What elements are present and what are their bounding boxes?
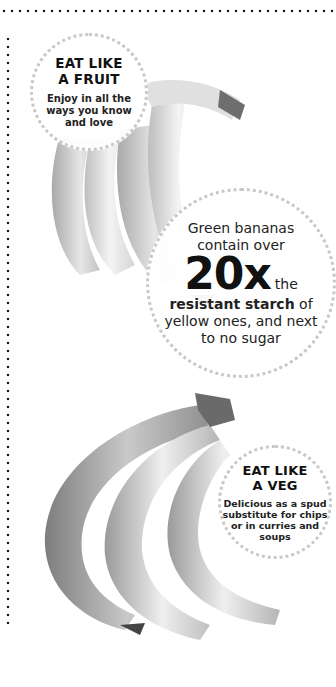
- body-line: or in curries and: [222, 520, 327, 531]
- veg-body: Delicious as a spud substitute for chips…: [222, 498, 327, 542]
- heading-line: EAT LIKE: [242, 463, 307, 478]
- heading-line: EAT LIKE: [55, 55, 122, 71]
- starch-line-rest: of: [295, 296, 313, 312]
- starch-stat-row: 20x the: [184, 252, 298, 296]
- top-dotted-rule: [0, 9, 333, 13]
- starch-bold-term: resistant starch: [169, 296, 294, 312]
- body-line: substitute for chips: [222, 509, 327, 520]
- starch-line: Green bananas: [188, 220, 295, 237]
- veg-heading: EAT LIKE A VEG: [242, 463, 307, 493]
- callout-eat-like-fruit: EAT LIKE A FRUIT Enjoy in all the ways y…: [30, 33, 148, 151]
- dotted-ring: [30, 33, 148, 151]
- starch-line: to no sugar: [201, 330, 281, 347]
- fruit-heading: EAT LIKE A FRUIT: [55, 55, 122, 87]
- body-line: ways you know: [46, 105, 132, 117]
- body-line: soups: [222, 531, 327, 542]
- callout-eat-like-veg: EAT LIKE A VEG Delicious as a spud subst…: [218, 445, 332, 559]
- callout-resistant-starch: Green bananas contain over 20x the resis…: [146, 188, 336, 378]
- starch-line: resistant starch of: [169, 296, 312, 313]
- starch-multiplier: 20x: [184, 252, 271, 296]
- heading-line: A FRUIT: [55, 71, 122, 87]
- body-line: Enjoy in all the: [46, 93, 132, 105]
- fruit-body: Enjoy in all the ways you know and love: [46, 93, 132, 129]
- heading-line: A VEG: [242, 478, 307, 493]
- body-line: Delicious as a spud: [222, 498, 327, 509]
- starch-line: yellow ones, and next: [164, 313, 317, 330]
- left-dotted-rule: [6, 35, 10, 629]
- starch-after-number: the: [275, 276, 298, 292]
- body-line: and love: [46, 117, 132, 129]
